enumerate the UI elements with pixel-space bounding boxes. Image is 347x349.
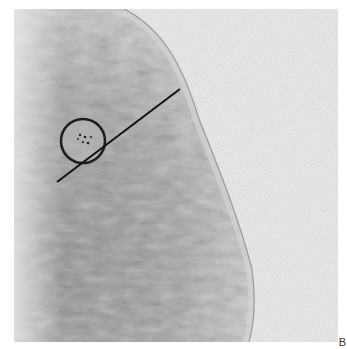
specimen-radiograph (14, 9, 338, 342)
lesion-marker-circle (61, 119, 105, 163)
panel-label: B (339, 336, 346, 348)
